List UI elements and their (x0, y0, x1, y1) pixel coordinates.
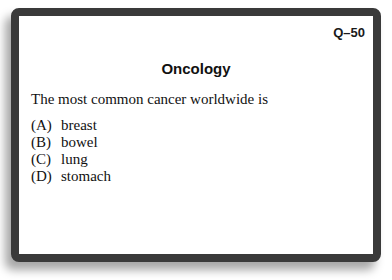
option-text: breast (61, 117, 97, 134)
question-text: The most common cancer worldwide is (31, 91, 268, 108)
question-card: Q–50 Oncology The most common cancer wor… (11, 8, 381, 262)
option-c: (C)lung (31, 151, 111, 168)
option-letter: (C) (31, 151, 61, 168)
option-text: stomach (61, 168, 111, 185)
option-b: (B)bowel (31, 134, 111, 151)
question-number: Q–50 (333, 25, 365, 40)
option-letter: (B) (31, 134, 61, 151)
options-list: (A)breast (B)bowel (C)lung (D)stomach (31, 117, 111, 185)
option-letter: (A) (31, 117, 61, 134)
option-a: (A)breast (31, 117, 111, 134)
option-d: (D)stomach (31, 168, 111, 185)
card-title: Oncology (19, 60, 373, 77)
option-letter: (D) (31, 168, 61, 185)
option-text: bowel (61, 134, 98, 151)
option-text: lung (61, 151, 88, 168)
